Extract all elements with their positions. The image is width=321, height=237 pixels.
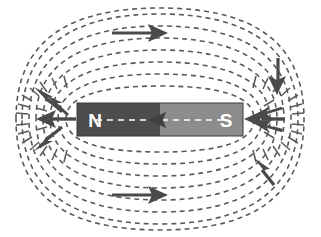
north-pole-arrow-mid — [36, 110, 76, 128]
pole-dash — [52, 78, 57, 89]
north-pole-arrow-upper2 — [46, 95, 68, 115]
pole-dash — [253, 150, 256, 162]
pole-dash — [52, 149, 57, 160]
pole-dash — [64, 150, 67, 162]
figure-canvas: N S — [0, 0, 321, 237]
pole-dash — [16, 124, 28, 125]
pole-dash — [16, 113, 28, 114]
magnetic-field-diagram: N S — [0, 0, 321, 237]
pole-dash — [292, 113, 304, 114]
pole-dash — [36, 108, 47, 111]
pole-dash — [281, 88, 290, 96]
south-pole-label: S — [220, 110, 233, 131]
north-pole-label: N — [88, 110, 102, 131]
pole-dash — [18, 104, 29, 107]
bottom-field-arrow — [112, 186, 168, 204]
pole-dash — [264, 132, 274, 138]
pole-dash — [263, 149, 268, 160]
pole-dash — [36, 127, 47, 130]
pole-dash — [292, 124, 304, 125]
